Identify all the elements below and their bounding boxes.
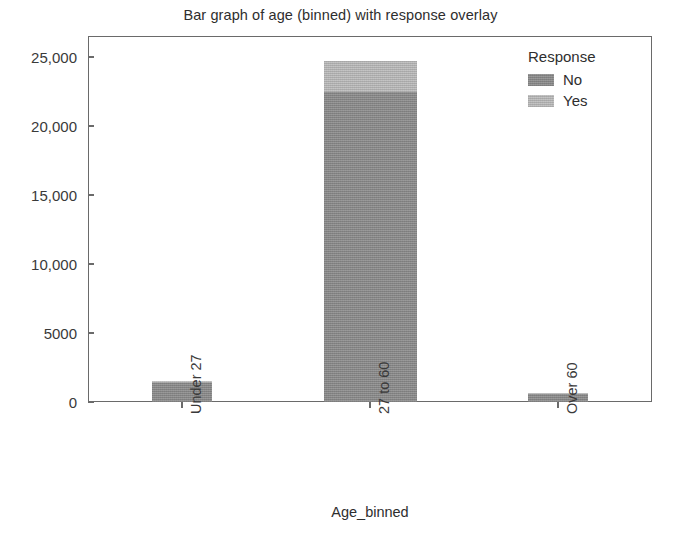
x-tick-mark xyxy=(369,402,370,408)
y-tick-label: 15,000 xyxy=(31,187,77,204)
chart-title: Bar graph of age (binned) with response … xyxy=(0,7,681,23)
texture-overlay xyxy=(528,95,554,107)
legend-item[interactable]: Yes xyxy=(528,90,640,111)
x-tick-label: Under 27 xyxy=(188,354,204,414)
texture-overlay xyxy=(324,92,417,402)
bar-segment-yes[interactable] xyxy=(324,61,417,92)
y-tick-label: 5000 xyxy=(44,325,77,342)
legend-title: Response xyxy=(528,48,640,65)
texture-overlay xyxy=(528,74,554,86)
legend-label: Yes xyxy=(563,92,587,109)
y-tick-label: 25,000 xyxy=(31,49,77,66)
bar-segment-no[interactable] xyxy=(324,92,417,402)
y-tick-label: 0 xyxy=(69,394,77,411)
legend: Response NoYes xyxy=(528,48,640,111)
y-tick-mark xyxy=(88,401,94,402)
x-tick-mark xyxy=(557,402,558,408)
y-tick-mark xyxy=(88,194,94,195)
x-tick-label: 27 to 60 xyxy=(376,362,392,414)
y-tick-mark xyxy=(88,56,94,57)
x-tick-mark xyxy=(181,402,182,408)
y-tick-mark xyxy=(88,263,94,264)
y-tick-label: 10,000 xyxy=(31,256,77,273)
texture-overlay xyxy=(324,61,417,92)
y-tick-label: 20,000 xyxy=(31,118,77,135)
legend-entries: NoYes xyxy=(528,69,640,111)
x-tick-label: Over 60 xyxy=(564,362,580,414)
y-tick-mark xyxy=(88,125,94,126)
x-axis-title: Age_binned xyxy=(88,504,652,520)
chart-figure: Bar graph of age (binned) with response … xyxy=(0,0,681,544)
bar-group[interactable] xyxy=(324,61,417,402)
legend-swatch-icon xyxy=(528,74,554,86)
legend-item[interactable]: No xyxy=(528,69,640,90)
y-tick-mark xyxy=(88,332,94,333)
legend-swatch-icon xyxy=(528,95,554,107)
legend-label: No xyxy=(563,71,582,88)
